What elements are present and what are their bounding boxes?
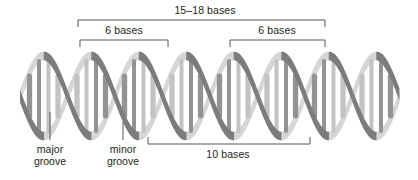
label-left-six-bases: 6 bases [105,24,142,36]
label-total-bases: 15–18 bases [174,4,235,16]
bracket-ten-bases [148,137,310,144]
label-minor-groove-line1: minor [107,143,139,155]
label-major-groove-line2: groove [34,155,66,167]
label-minor-groove-line2: groove [107,155,139,167]
dna-helix-figure: 15–18 bases 6 bases 6 bases 10 bases maj… [0,0,418,180]
label-ten-bases: 10 bases [206,148,249,160]
bracket-left-six-bases [80,40,168,47]
label-major-groove-line1: major [34,143,66,155]
label-minor-groove: minor groove [107,143,139,167]
label-right-six-bases: 6 bases [258,24,295,36]
label-major-groove: major groove [34,143,66,167]
bracket-right-six-bases [230,40,325,47]
